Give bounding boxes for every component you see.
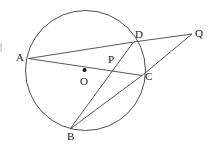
point-label-a: A	[16, 52, 24, 63]
center-point-dot-o	[83, 68, 87, 72]
point-label-o: O	[80, 76, 88, 87]
point-label-p: P	[108, 54, 114, 65]
left-edge-artifact: |	[0, 42, 2, 52]
point-label-c: C	[145, 71, 152, 82]
segment-a-d	[29, 42, 134, 59]
point-label-b: B	[67, 131, 74, 142]
geometry-canvas	[0, 0, 213, 149]
segment-a-c	[29, 59, 143, 76]
geometry-figure: A D C B Q P O |	[0, 0, 213, 149]
point-label-q: Q	[195, 28, 203, 39]
point-label-d: D	[135, 29, 143, 40]
